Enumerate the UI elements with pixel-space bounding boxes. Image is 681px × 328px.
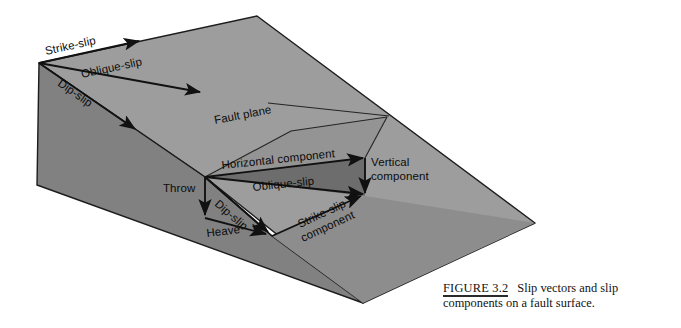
label-vertical-component-line2: component <box>371 170 430 182</box>
label-throw: Throw <box>163 182 196 194</box>
figure-number: FIGURE 3.2 <box>443 281 508 297</box>
fault-block-diagram: Strike-slip Oblique-slip Dip-slip Fault … <box>0 0 681 328</box>
figure-caption: FIGURE 3.2Slip vectors and slip componen… <box>443 281 675 310</box>
label-vertical-component-line1: Vertical <box>371 156 410 168</box>
figure-container: Strike-slip Oblique-slip Dip-slip Fault … <box>0 0 681 328</box>
